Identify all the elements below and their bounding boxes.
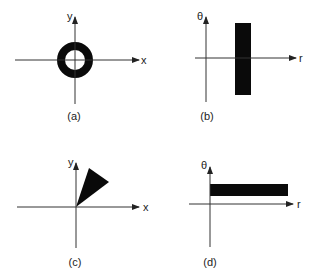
panel-a: x y (a) <box>15 10 147 122</box>
theta-axis-label: θ <box>201 159 207 171</box>
panel-caption: (a) <box>67 110 80 122</box>
wedge-shape <box>76 168 109 207</box>
panel-caption: (d) <box>203 256 216 268</box>
panel-c: x y (c) <box>17 156 149 268</box>
x-axis-label: x <box>141 54 147 66</box>
theta-axis-label: θ <box>197 10 203 22</box>
panel-caption: (b) <box>200 110 213 122</box>
panel-d: r θ (d) <box>189 159 301 268</box>
rect-shape-vertical <box>235 23 251 95</box>
y-axis-label: y <box>67 10 73 22</box>
rect-shape-horizontal <box>210 184 288 196</box>
panel-b: r θ (b) <box>195 10 303 122</box>
y-axis-label: y <box>68 156 74 168</box>
diagram-figure: x y (a) r θ (b) x y (c) r θ (d) <box>0 0 314 275</box>
r-axis-label: r <box>299 52 303 64</box>
r-axis-label: r <box>297 198 301 210</box>
panel-caption: (c) <box>69 256 82 268</box>
x-axis-label: x <box>143 201 149 213</box>
